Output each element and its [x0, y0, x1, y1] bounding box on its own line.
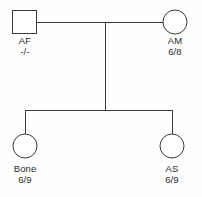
pedigree-diagram: AF -/- AM 6/8 Bone 6/9 AS 6/9	[0, 0, 202, 197]
child-1-id: Bone	[0, 163, 50, 174]
label-father: AF -/-	[0, 35, 50, 57]
mother-genotype: 6/8	[150, 46, 200, 57]
child-2-genotype: 6/9	[147, 174, 197, 185]
father-genotype: -/-	[0, 46, 50, 57]
symbol-female-mother[interactable]	[163, 10, 187, 34]
child-2-id: AS	[147, 163, 197, 174]
symbol-male-father[interactable]	[13, 11, 37, 34]
child-1-genotype: 6/9	[0, 174, 50, 185]
label-mother: AM 6/8	[150, 35, 200, 57]
symbol-female-child-2[interactable]	[160, 134, 184, 158]
symbol-female-child-1[interactable]	[13, 134, 37, 158]
label-child-2: AS 6/9	[147, 163, 197, 185]
label-child-1: Bone 6/9	[0, 163, 50, 185]
mother-id: AM	[150, 35, 200, 46]
father-id: AF	[0, 35, 50, 46]
